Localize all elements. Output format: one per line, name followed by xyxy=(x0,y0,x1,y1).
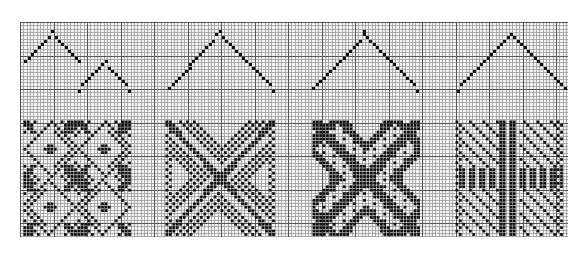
drawdown-pattern-4 xyxy=(455,120,563,236)
threading-draft-2 xyxy=(165,28,275,92)
threading-draft-3 xyxy=(310,28,420,92)
drawdown-pattern-2 xyxy=(165,120,275,236)
drawdown-pattern-3 xyxy=(312,120,420,236)
threading-draft-4 xyxy=(455,28,565,92)
threading-draft-1 xyxy=(22,28,132,92)
drawdown-pattern-1 xyxy=(23,120,131,236)
